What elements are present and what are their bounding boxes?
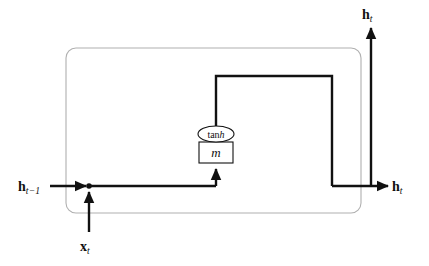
label-x-t-subscript: t (87, 246, 90, 256)
label-h-right-symbol: h (392, 179, 400, 194)
label-h-right: ht (392, 178, 403, 197)
tanh-node-label: tanh (195, 129, 237, 140)
label-h-top-symbol: h (362, 7, 370, 22)
tanh-italic-h: h (220, 129, 225, 140)
label-h-top-subscript: t (370, 14, 373, 24)
label-h-prev-subscript: t−1 (26, 186, 40, 196)
label-h-prev-symbol: h (18, 179, 26, 194)
rnn-cell-diagram: tanh m ht−1 xt ht ht (0, 0, 429, 266)
label-h-right-subscript: t (400, 186, 403, 196)
tanh-prefix: tan (208, 129, 220, 140)
label-x-t-symbol: x (80, 239, 87, 254)
m-unit-label: m (198, 145, 234, 161)
label-h-top: ht (362, 6, 373, 25)
label-h-prev: ht−1 (18, 178, 40, 197)
label-x-t: xt (80, 238, 90, 257)
